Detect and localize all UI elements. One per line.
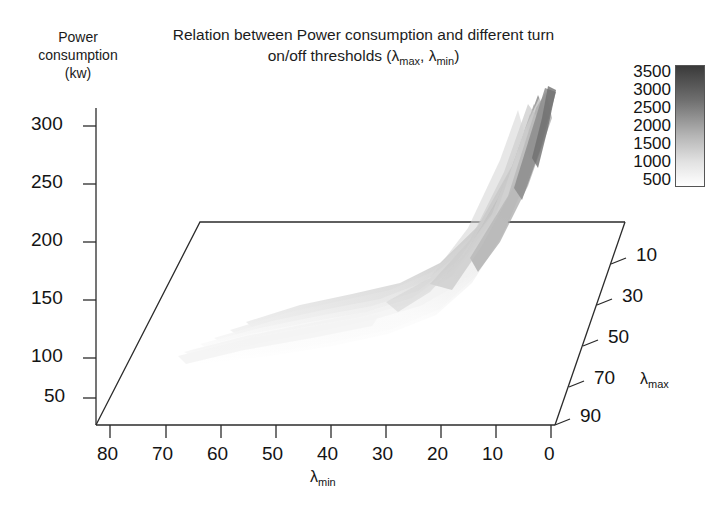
surface-plot-canvas	[0, 0, 727, 512]
x-tick-label-80: 80	[97, 443, 118, 465]
x-axis-ticks	[110, 425, 551, 438]
colorbar-tick-1500: 1500	[633, 134, 671, 154]
colorbar-tick-3500: 3500	[633, 62, 671, 82]
y-tick-label-150: 150	[31, 287, 63, 309]
z-axis-name-symbol: λ	[640, 370, 648, 387]
z-tick-label-30: 30	[622, 285, 643, 307]
y-tick-label-50: 50	[44, 385, 65, 407]
colorbar-tick-2000: 2000	[633, 116, 671, 136]
y-axis-line	[83, 108, 96, 425]
x-tick-label-30: 30	[372, 443, 393, 465]
z-tick-label-50: 50	[608, 326, 629, 348]
colorbar-tick-1000: 1000	[633, 152, 671, 172]
colorbar-tick-500: 500	[643, 170, 671, 190]
figure-root: Relation between Power consumption and d…	[0, 0, 727, 512]
x-tick-label-40: 40	[317, 443, 338, 465]
y-tick-label-300: 300	[31, 113, 63, 135]
x-tick-label-60: 60	[207, 443, 228, 465]
x-tick-label-20: 20	[427, 443, 448, 465]
z-tick-label-10: 10	[636, 244, 657, 266]
colorbar-tick-3000: 3000	[633, 80, 671, 100]
x-axis-name-symbol: λ	[310, 468, 318, 485]
y-tick-label-250: 250	[31, 171, 63, 193]
z-axis-name: λmax	[640, 370, 669, 390]
surface-mesh	[178, 86, 556, 364]
y-tick-label-100: 100	[31, 345, 63, 367]
x-tick-label-0: 0	[544, 443, 555, 465]
x-axis-name-subscript: min	[318, 476, 336, 488]
y-tick-label-200: 200	[31, 229, 63, 251]
x-tick-label-10: 10	[482, 443, 503, 465]
y-axis-ticks	[83, 126, 96, 398]
x-tick-label-70: 70	[152, 443, 173, 465]
colorbar	[675, 65, 705, 187]
x-tick-label-50: 50	[262, 443, 283, 465]
z-axis-name-subscript: max	[648, 378, 669, 390]
z-tick-label-70: 70	[594, 367, 615, 389]
x-axis-name: λmin	[310, 468, 336, 488]
colorbar-tick-2500: 2500	[633, 98, 671, 118]
colorbar-gradient	[675, 65, 705, 187]
z-tick-label-90: 90	[580, 405, 601, 427]
